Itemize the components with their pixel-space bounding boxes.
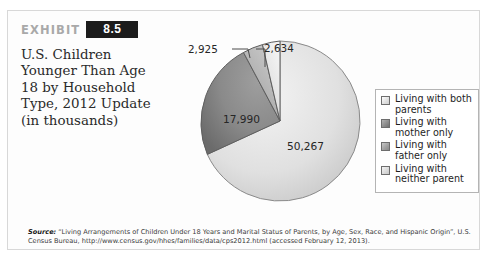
exhibit-title: U.S. Children Younger Than Age 18 by Hou…	[21, 47, 153, 129]
mother-only-swatch	[381, 119, 390, 128]
exhibit-header: EXHIBIT 8.5 U.S. Children Younger Than A…	[21, 21, 171, 129]
pie-label-mother-only: 17,990	[223, 113, 260, 125]
source-label: Source:	[28, 228, 56, 236]
legend-item-neither-parent: Living with neither parent	[380, 164, 475, 185]
legend-item-mother-only: Living with mother only	[380, 117, 475, 138]
legend-label-neither-parent: Living with neither parent	[395, 164, 475, 185]
pie-chart-svg	[194, 33, 374, 208]
legend-label-father-only: Living with father only	[395, 140, 475, 161]
pie-label-father-only: 2,925	[188, 43, 218, 55]
pie-label-both-parents: 50,267	[287, 140, 324, 152]
both-parents-swatch	[381, 96, 390, 105]
source-text: “Living Arrangements of Children Under 1…	[28, 228, 471, 245]
legend-item-father-only: Living with father only	[380, 140, 475, 161]
father-only-swatch	[381, 142, 390, 151]
exhibit-number-badge: 8.5	[86, 21, 138, 38]
chart-legend: Living with both parents Living with mot…	[375, 89, 479, 193]
source-note: Source: “Living Arrangements of Children…	[28, 228, 476, 247]
legend-item-both-parents: Living with both parents	[380, 94, 475, 115]
exhibit-label: EXHIBIT	[21, 23, 80, 37]
neither-parent-swatch	[381, 166, 390, 175]
exhibit-badge-row: EXHIBIT 8.5	[21, 21, 171, 38]
legend-label-mother-only: Living with mother only	[395, 117, 475, 138]
exhibit-card: EXHIBIT 8.5 U.S. Children Younger Than A…	[7, 10, 480, 250]
pie-chart: 50,267 17,990 2,925 2,634	[194, 33, 374, 208]
pie-label-neither-parent: 2,634	[264, 42, 294, 54]
legend-label-both-parents: Living with both parents	[395, 94, 475, 115]
